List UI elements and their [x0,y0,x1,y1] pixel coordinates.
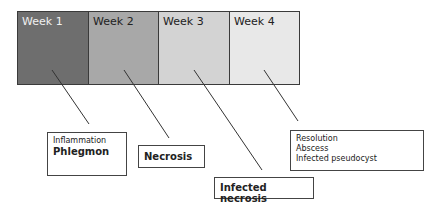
callout-inflammation: Inflammation [53,136,121,146]
callout-week3: Infected necrosis [214,177,314,199]
callout-week1: Inflammation Phlegmon [47,132,127,176]
callout-infected-necrosis: Infected necrosis [220,182,308,204]
callout-infected-pseudocyst: Infected pseudocyst [296,154,418,164]
callout-week2: Necrosis [138,145,205,168]
callout-necrosis: Necrosis [144,151,199,162]
callout-phlegmon: Phlegmon [53,146,121,157]
callout-abscess: Abscess [296,144,418,154]
callout-week4: Resolution Abscess Infected pseudocyst [290,130,424,171]
callout-resolution: Resolution [296,134,418,144]
